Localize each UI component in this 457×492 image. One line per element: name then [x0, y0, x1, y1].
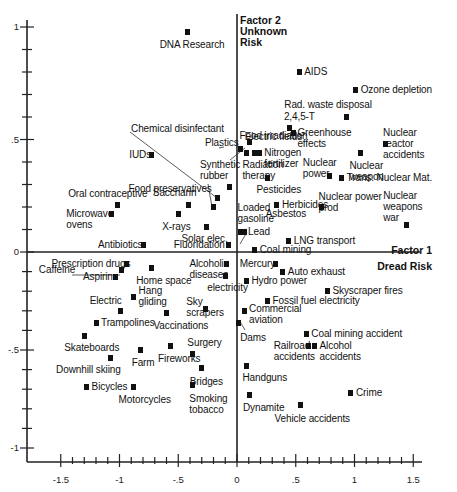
label-hydro-power: Hydro power	[251, 275, 307, 286]
marker-solar-elec	[204, 224, 209, 230]
label-synthetic-rubber: Synthetic rubber	[200, 159, 240, 181]
label-sky-scrapers: Sky scrapers	[186, 296, 224, 318]
label-dna-research: DNA Research	[160, 39, 225, 50]
y-tick-label: 1	[14, 21, 19, 32]
marker-dynamite	[247, 392, 252, 398]
marker-electric	[118, 308, 123, 314]
label-hang-gliding: Hang gliding	[139, 285, 167, 307]
label-radiation-therapy: Radiation therapy	[242, 159, 283, 181]
marker-bicycles	[84, 384, 89, 390]
marker-oral-contraceptive	[115, 202, 120, 208]
label-smoking-tobacco: Smoking tobacco	[189, 393, 227, 415]
label-skateboards: Skateboards	[64, 342, 119, 353]
marker-dna-research	[185, 29, 190, 35]
marker-commercial-aviation	[242, 308, 247, 314]
label-iuds: IUDs	[129, 149, 151, 160]
label-electric-fields: Electric fields	[245, 131, 302, 142]
marker-synthetic-rubber	[227, 184, 232, 190]
x-tick-label: 1.5	[405, 474, 421, 485]
marker-handguns	[244, 363, 249, 369]
label-mercury: Mercury	[240, 258, 275, 269]
label-chemical-disinfectant: Chemical disinfectant	[131, 123, 224, 134]
label-microwave-ovens: Microwave ovens	[66, 208, 113, 230]
marker-x-rays	[176, 211, 181, 217]
marker-fluoridation	[226, 242, 231, 248]
label-nuclear-power-prod: Nuclear power prod	[319, 191, 382, 213]
label-trans-nuclear-mat: Trans. Nuclear Mat.	[347, 172, 433, 183]
label-rad-waste-disposal: Rad. waste disposal	[284, 99, 372, 110]
label-aids: AIDS	[304, 66, 327, 77]
marker-plastics	[247, 139, 252, 145]
x-tick-label: -.5	[170, 474, 186, 485]
y-tick-label: -1	[11, 442, 19, 453]
label-aspirin: Aspirin	[83, 271, 113, 282]
label-crime: Crime	[356, 387, 382, 398]
marker-lead	[242, 229, 247, 235]
marker-aspirin	[113, 274, 118, 280]
marker-food-preservatives	[211, 204, 216, 210]
marker-trampolines	[94, 320, 99, 326]
marker-electricity	[223, 273, 228, 279]
label-pesticides: Pesticides	[257, 184, 302, 195]
label-railroad-accidents: Railroad accidents	[274, 340, 315, 362]
label-2-4-5-t: 2,4,5-T	[284, 111, 315, 122]
marker-auto-exhaust	[280, 269, 285, 275]
label-nuclear-weapons-war: Nuclear weapons war	[383, 190, 422, 223]
marker-skyscraper-fires	[325, 288, 330, 294]
marker-downhill-skiing	[108, 355, 113, 361]
marker-farm	[138, 347, 143, 353]
marker-skateboards	[82, 333, 87, 339]
x-axis-ticks	[61, 454, 414, 467]
y-tick-label: .5	[11, 134, 19, 145]
label-fireworks: Fireworks	[158, 353, 200, 364]
x-tick-label: -1	[112, 474, 128, 485]
label-plastics: Plastics	[205, 137, 239, 148]
marker-vehicle-accidents	[298, 402, 303, 408]
label-home-space: Home space	[136, 275, 191, 286]
label-caffeine: Caffeine	[39, 264, 75, 275]
y-tick-label: -.5	[8, 344, 19, 355]
marker-home-space	[149, 265, 154, 271]
marker-bridges	[199, 365, 204, 371]
marker-aids	[297, 69, 302, 75]
marker-fireworks	[168, 343, 173, 349]
x-tick-label: 0	[229, 474, 245, 485]
marker-coal-mining-accident	[304, 331, 309, 337]
label-coal-mining: Coal mining	[260, 244, 312, 255]
label-ozone-depletion: Ozone depletion	[361, 84, 432, 95]
label-electricity: electricity	[207, 282, 248, 293]
label-x-rays: X-rays	[162, 221, 190, 232]
label-dams: Dams	[240, 332, 266, 343]
label-downhill-skiing: Downhill skiing	[56, 364, 121, 375]
marker-rad-waste-disposal	[344, 114, 349, 120]
marker-coal-mining	[252, 247, 257, 253]
x-tick-label: 1	[347, 474, 363, 485]
label-saccharin: Saccharin	[153, 187, 197, 198]
label-surgery: Surgery	[187, 337, 221, 348]
label-farm: Farm	[132, 357, 155, 368]
label-oral-contraceptive: Oral contraceptive	[68, 188, 147, 199]
marker-ozone-depletion	[353, 87, 358, 93]
label-handguns: Handguns	[242, 372, 287, 383]
label-dynamite: Dynamite	[243, 402, 284, 413]
marker-caffeine	[119, 267, 124, 273]
label-motorcycles: Motorcycles	[119, 394, 171, 405]
marker-vaccinations	[164, 310, 169, 316]
label-electric: Electric	[90, 295, 122, 306]
marker-hydro-power	[244, 278, 249, 284]
label-fluoridation: Fluoridation	[174, 239, 225, 250]
y-axis-title: Factor 2 Unknown Risk	[240, 15, 287, 48]
x-tick-label: .5	[288, 474, 304, 485]
marker-pesticides	[265, 175, 270, 181]
marker-chemical-disinfectant	[215, 195, 220, 201]
marker-motorcycles	[131, 384, 136, 390]
label-vehicle-accidents: Vehicle accidents	[274, 413, 350, 424]
x-tick-label: -1.5	[53, 474, 69, 485]
marker-nuclear-weapon	[358, 150, 363, 156]
marker-dams	[236, 320, 241, 326]
marker-radiation-therapy	[244, 150, 249, 156]
label-commercial-aviation: Commercial aviation	[249, 303, 301, 325]
marker-nitrogen-fertilizer	[257, 150, 262, 156]
label-bicycles: Bicycles	[92, 381, 128, 392]
label-trampolines: Trampolines	[101, 317, 155, 328]
